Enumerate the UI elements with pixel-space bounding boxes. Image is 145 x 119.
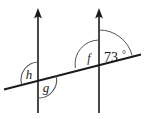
left-parallel-line [34,8,42,113]
geometry-canvas: h g f 73 ° [0,0,145,119]
transversal-line [4,55,141,90]
angle-label-g: g [43,80,50,95]
angle-label-h: h [26,67,33,82]
geometry-figure: h g f 73 ° [0,0,145,119]
angle-label-f: f [87,51,92,65]
angle-label-73: 73 [104,50,118,65]
right-parallel-line [95,8,103,113]
degree-symbol-icon: ° [122,49,126,60]
